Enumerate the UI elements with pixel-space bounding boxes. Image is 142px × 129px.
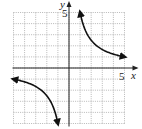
hyperbola-chart xyxy=(0,0,142,129)
y-tick-label-5: 5 xyxy=(62,8,68,19)
x-tick-label-5: 5 xyxy=(119,71,125,82)
x-axis-label: x xyxy=(131,70,136,81)
axes xyxy=(13,1,139,127)
